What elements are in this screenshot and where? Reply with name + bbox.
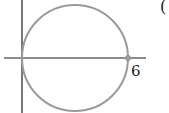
x-intercept-label: 6 bbox=[131, 62, 141, 80]
intercept-point bbox=[125, 55, 131, 61]
polar-circle-diagram: 6 ( bbox=[0, 0, 169, 113]
partial-parenthesis-label: ( bbox=[160, 0, 166, 16]
